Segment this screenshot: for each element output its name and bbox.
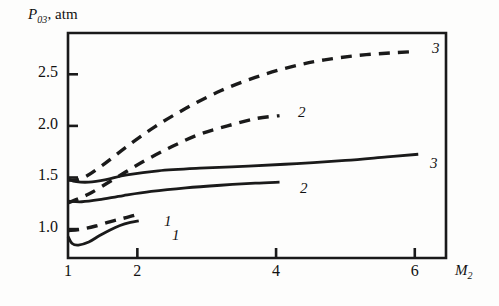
y-tick-label-1.5: 1.5: [16, 166, 58, 184]
x-tick-label-1: 1: [56, 262, 80, 280]
curve-label-1-0: 1: [164, 213, 172, 230]
curve-1: [68, 221, 139, 245]
curve-2: [68, 182, 280, 202]
curve-label-3-4: 3: [432, 40, 440, 57]
curve-label-1-1: 1: [172, 227, 180, 244]
curve-3: [68, 154, 418, 182]
curve-3d: [68, 52, 415, 181]
x-tick-label-4: 4: [264, 262, 288, 280]
y-tick-label-2.5: 2.5: [16, 63, 58, 81]
plot-area: [0, 0, 499, 306]
x-tick-label-2: 2: [125, 262, 149, 280]
figure-container: P03, atm M2 1.01.52.02.51246 112233: [0, 0, 499, 306]
curve-label-2-3: 2: [300, 180, 308, 197]
x-tick-label-6: 6: [403, 262, 427, 280]
curve-label-2-2: 2: [298, 104, 306, 121]
curve-label-3-5: 3: [430, 155, 438, 172]
data-curves: [68, 52, 418, 246]
y-tick-label-1.0: 1.0: [16, 218, 58, 236]
y-tick-label-2.0: 2.0: [16, 115, 58, 133]
